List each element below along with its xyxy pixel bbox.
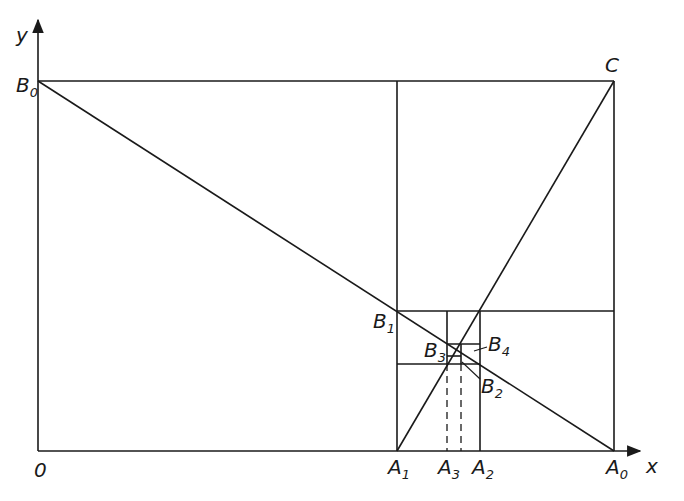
label-a0: A0 xyxy=(604,455,628,482)
line-b0-a0 xyxy=(38,81,614,451)
label-b1: B1 xyxy=(373,309,395,336)
label-a2: A2 xyxy=(470,455,494,482)
y-axis-label: y xyxy=(15,23,29,47)
x-axis-label: x xyxy=(645,454,658,478)
label-b3: B3 xyxy=(424,338,446,365)
line-a1-c xyxy=(397,81,614,451)
label-c: C xyxy=(605,53,619,77)
label-a3: A3 xyxy=(436,455,460,482)
label-a1: A1 xyxy=(386,455,410,482)
cobweb-diagram: y x 0 B0 C B1 B3 B4 B2 A1 A3 A2 A0 xyxy=(0,0,684,501)
origin-label: 0 xyxy=(34,458,47,482)
label-b4: B4 xyxy=(488,332,510,359)
label-b0: B0 xyxy=(16,73,38,100)
